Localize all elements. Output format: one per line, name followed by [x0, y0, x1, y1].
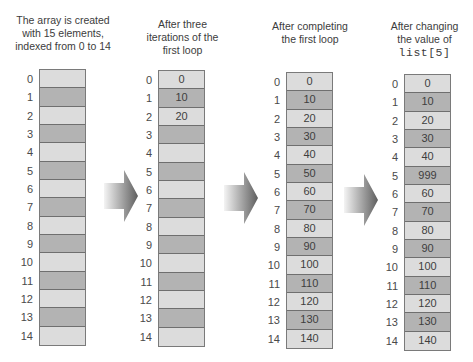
index-label: 8: [260, 220, 280, 238]
index-label: 13: [260, 311, 280, 329]
array-cell: [159, 163, 204, 181]
array-cell: [159, 273, 204, 291]
caption-initial: The array is created with 15 elements, i…: [8, 14, 118, 53]
array-cell: 50: [287, 165, 332, 183]
index-label: 10: [378, 258, 398, 276]
caption-after-change: After changing the value of list[5]: [372, 20, 473, 59]
array-cell: [40, 198, 85, 216]
arrow-right-icon: [224, 172, 258, 224]
index-label: 5: [378, 167, 398, 185]
index-label: 14: [132, 328, 152, 346]
array-cell: 130: [405, 313, 450, 331]
caption-first-loop: After completing the first loop: [255, 20, 365, 46]
array-cell: [40, 143, 85, 161]
array-box: 0102030405060708090100110120130140: [286, 72, 333, 349]
index-label: 14: [13, 327, 33, 345]
array-cell: 70: [405, 203, 450, 221]
caption-line: the value of: [372, 33, 473, 46]
array-cell: 30: [405, 130, 450, 148]
array-cell: 100: [287, 256, 332, 274]
index-label: 5: [13, 162, 33, 180]
array-cell: 30: [287, 128, 332, 146]
array-cell: 60: [405, 185, 450, 203]
array-box: 01020: [158, 70, 205, 347]
index-label: 10: [260, 256, 280, 274]
array-cell: 80: [405, 222, 450, 240]
index-label: 11: [378, 277, 398, 295]
array-cell: 140: [287, 330, 332, 348]
array-cell: 0: [159, 71, 204, 89]
array-cell: [159, 218, 204, 236]
array-cell: 20: [159, 108, 204, 126]
index-label: 3: [13, 125, 33, 143]
array-cell: [40, 70, 85, 88]
index-label: 12: [132, 291, 152, 309]
array-cell: 10: [159, 89, 204, 107]
caption-line: with 15 elements,: [8, 27, 118, 40]
caption-line: After completing: [255, 20, 365, 33]
array-cell: [159, 254, 204, 272]
array-cell: [159, 309, 204, 327]
array-cell: [159, 126, 204, 144]
array-cell: 90: [287, 238, 332, 256]
index-label: 2: [13, 107, 33, 125]
index-label: 7: [260, 201, 280, 219]
array-cell: [40, 327, 85, 345]
index-label: 3: [132, 126, 152, 144]
array-cell: 20: [405, 112, 450, 130]
array-cell: 0: [287, 73, 332, 91]
array-cell: [159, 199, 204, 217]
index-label: 8: [132, 218, 152, 236]
index-label: 0: [378, 75, 398, 93]
index-label: 6: [132, 181, 152, 199]
index-label: 2: [132, 108, 152, 126]
caption-line: indexed from 0 to 14: [8, 40, 118, 53]
index-label: 13: [132, 309, 152, 327]
array-cell: 120: [287, 293, 332, 311]
index-label: 10: [13, 253, 33, 271]
index-label: 6: [13, 180, 33, 198]
index-label: 3: [378, 130, 398, 148]
array-cell: 0: [405, 75, 450, 93]
index-label: 12: [378, 295, 398, 313]
array-cell: [159, 328, 204, 346]
array-cell: [40, 272, 85, 290]
index-label: 2: [378, 112, 398, 130]
index-label: 8: [13, 217, 33, 235]
array-cell: 140: [405, 332, 450, 350]
array-cell: 110: [287, 275, 332, 293]
array-cell: 110: [405, 277, 450, 295]
index-label: 6: [260, 183, 280, 201]
index-label: 9: [13, 235, 33, 253]
array-cell: 10: [405, 93, 450, 111]
caption-line: After three: [130, 18, 235, 31]
index-label: 1: [378, 93, 398, 111]
index-label: 9: [260, 238, 280, 256]
index-label: 2: [260, 110, 280, 128]
index-label: 11: [132, 273, 152, 291]
index-label: 1: [13, 88, 33, 106]
array-cell: 999: [405, 167, 450, 185]
array-cell: 40: [287, 146, 332, 164]
array-cell: [40, 235, 85, 253]
array-cell: [159, 181, 204, 199]
index-label: 14: [260, 330, 280, 348]
array-cell: 70: [287, 201, 332, 219]
array-cell: 40: [405, 148, 450, 166]
caption-line: the first loop: [255, 33, 365, 46]
index-label: 8: [378, 222, 398, 240]
array-cell: [159, 144, 204, 162]
array-cell: [40, 253, 85, 271]
array-cell: 20: [287, 110, 332, 128]
caption-line: first loop: [130, 44, 235, 57]
array-cell: [159, 291, 204, 309]
array-cell: 120: [405, 295, 450, 313]
index-label: 3: [260, 128, 280, 146]
array-cell: [40, 88, 85, 106]
arrow-right-icon: [344, 174, 378, 226]
index-label: 0: [132, 71, 152, 89]
index-label: 7: [13, 198, 33, 216]
array-cell: 90: [405, 240, 450, 258]
array-cell: 10: [287, 91, 332, 109]
index-label: 12: [13, 290, 33, 308]
